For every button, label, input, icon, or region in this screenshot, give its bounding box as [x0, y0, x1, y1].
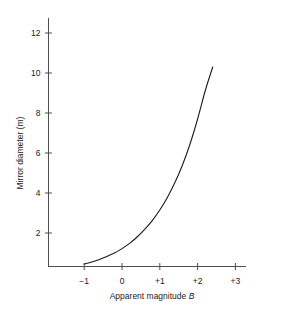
x-tick-label: +2: [186, 276, 210, 286]
x-tick-label: +1: [148, 276, 172, 286]
x-tick-label: 0: [110, 276, 134, 286]
x-axis-title: Apparent magnitude B: [62, 291, 242, 301]
y-tick-label: 10: [21, 68, 41, 78]
y-tick-label: 12: [21, 28, 41, 38]
data-series-curve: [84, 67, 213, 264]
x-axis-title-text: Apparent magnitude: [110, 291, 189, 301]
x-tick-label: −1: [72, 276, 96, 286]
y-tick-label: 2: [21, 228, 41, 238]
x-axis-title-symbol: B: [189, 291, 195, 301]
plot-area: [0, 0, 289, 315]
chart-figure: · · · · 24681012 −10+1+2+3 Apparent magn…: [0, 0, 289, 315]
y-axis-title: Mirror diameter (m): [15, 83, 25, 223]
x-tick-label: +3: [223, 276, 247, 286]
